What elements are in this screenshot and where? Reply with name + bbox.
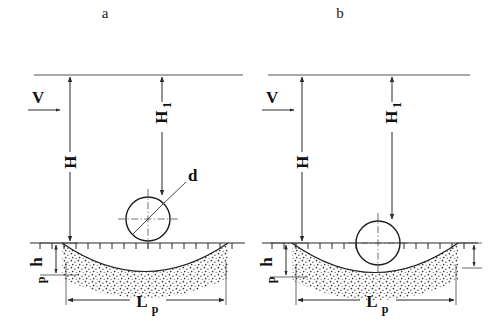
- depth-H-dimension-a: H: [61, 77, 80, 241]
- Lp-label-b: L: [366, 292, 377, 311]
- panel-b: b V H H 1: [257, 5, 482, 324]
- panel-b-letter: b: [336, 5, 344, 21]
- hp-subscript-a: p: [34, 276, 48, 283]
- hp-label-b: h: [257, 257, 276, 267]
- velocity-label-a: V: [32, 88, 45, 107]
- H-label-a: H: [61, 155, 80, 168]
- velocity-indicator-b: V: [262, 88, 294, 110]
- Lp-label-a: L: [136, 292, 147, 311]
- H1-label-a: H: [152, 110, 171, 123]
- figure-canvas: a V H H 1: [0, 0, 495, 327]
- depth-H1-dimension-a: H 1: [152, 77, 174, 195]
- panel-a: a V H H 1: [27, 5, 245, 322]
- bed-hatch-ticks-b: [272, 243, 464, 249]
- Lp-subscript-b: p: [382, 302, 389, 316]
- H1-subscript-b: 1: [390, 102, 404, 108]
- hp-subscript-b: p: [264, 276, 278, 283]
- d-leader-line-a: [163, 182, 186, 204]
- panel-a-letter: a: [102, 5, 109, 21]
- hp-label-a: h: [27, 257, 46, 267]
- schematic-svg: a V H H 1: [0, 0, 495, 327]
- d-label-a: d: [188, 166, 198, 185]
- H1-label-b: H: [382, 110, 401, 123]
- right-depth-bracket-b: [458, 243, 482, 268]
- depth-H1-dimension-b: H 1: [382, 77, 404, 219]
- diameter-callout-a: d: [163, 166, 198, 204]
- crater-sediment-fill-b: [286, 240, 466, 324]
- H-label-b: H: [293, 155, 312, 168]
- H1-subscript-a: 1: [160, 102, 174, 108]
- velocity-indicator-a: V: [28, 88, 60, 110]
- Lp-subscript-a: p: [152, 302, 159, 316]
- scour-crater-b: [286, 240, 466, 324]
- velocity-label-b: V: [266, 88, 279, 107]
- depth-H-dimension-b: H: [293, 77, 312, 241]
